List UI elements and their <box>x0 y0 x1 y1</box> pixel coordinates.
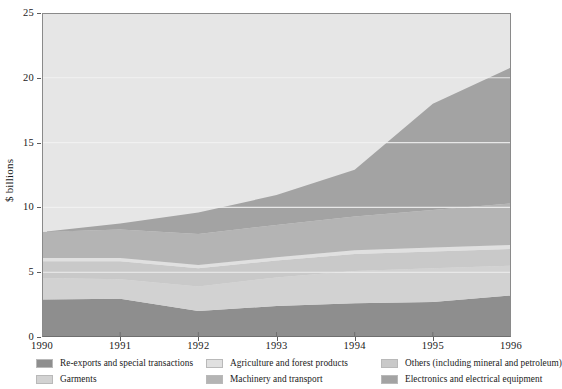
x-tick-label-1994: 1994 <box>344 341 366 352</box>
legend-item-electronics-and-electrical-equipment: Electronics and electrical equipment <box>381 372 550 387</box>
legend-label: Machinery and transport <box>230 375 323 384</box>
legend-swatch-re-exports <box>36 359 53 368</box>
chart-legend: Re-exports and special transactions Agri… <box>36 356 550 387</box>
legend-label: Electronics and electrical equipment <box>405 375 542 384</box>
y-tick-mark-10 <box>37 207 41 208</box>
x-tick-label-1992: 1992 <box>187 341 209 352</box>
x-tick-label-1991: 1991 <box>109 341 131 352</box>
y-tick-mark-20 <box>37 78 41 79</box>
legend-item-re-exports-and-special-transactions: Re-exports and special transactions <box>36 356 206 371</box>
legend-label: Garments <box>60 375 97 384</box>
legend-swatch-others <box>381 359 398 368</box>
x-tick-mark-1994 <box>355 337 356 341</box>
y-tick-mark-0 <box>37 337 41 338</box>
y-tick-label-5: 5 <box>0 267 34 278</box>
y-tick-label-25: 25 <box>0 8 34 19</box>
x-tick-mark-1992 <box>198 337 199 341</box>
legend-swatch-garments <box>36 375 53 384</box>
y-axis-label: $ billions <box>2 189 16 201</box>
legend-swatch-agriculture <box>206 359 223 368</box>
y-tick-label-15: 15 <box>0 137 34 148</box>
legend-item-agriculture-and-forest-products: Agriculture and forest products <box>206 356 381 371</box>
stacked-area-svg <box>42 13 511 337</box>
legend-swatch-electronics <box>381 375 398 384</box>
x-tick-label-1995: 1995 <box>422 341 444 352</box>
x-tick-label-1990: 1990 <box>31 341 53 352</box>
y-tick-mark-5 <box>37 272 41 273</box>
y-tick-label-20: 20 <box>0 73 34 84</box>
legend-label: Others (including mineral and petroleum) <box>405 359 562 368</box>
legend-label: Agriculture and forest products <box>230 359 348 368</box>
legend-label: Re-exports and special transactions <box>60 359 193 368</box>
y-tick-label-0: 0 <box>0 332 34 343</box>
legend-item-others-including-mineral-and-petroleum: Others (including mineral and petroleum) <box>381 356 550 371</box>
area-electronics-and-electrical-equipment <box>42 67 511 234</box>
y-tick-mark-15 <box>37 143 41 144</box>
plot-area <box>42 13 511 337</box>
legend-item-garments: Garments <box>36 372 206 387</box>
legend-item-machinery-and-transport: Machinery and transport <box>206 372 381 387</box>
x-tick-mark-1995 <box>433 337 434 341</box>
x-tick-mark-1991 <box>120 337 121 341</box>
y-tick-label-10: 10 <box>0 202 34 213</box>
y-tick-mark-25 <box>37 13 41 14</box>
x-tick-label-1996: 1996 <box>500 341 522 352</box>
legend-swatch-machinery <box>206 375 223 384</box>
x-tick-mark-1993 <box>277 337 278 341</box>
x-tick-label-1993: 1993 <box>265 341 287 352</box>
